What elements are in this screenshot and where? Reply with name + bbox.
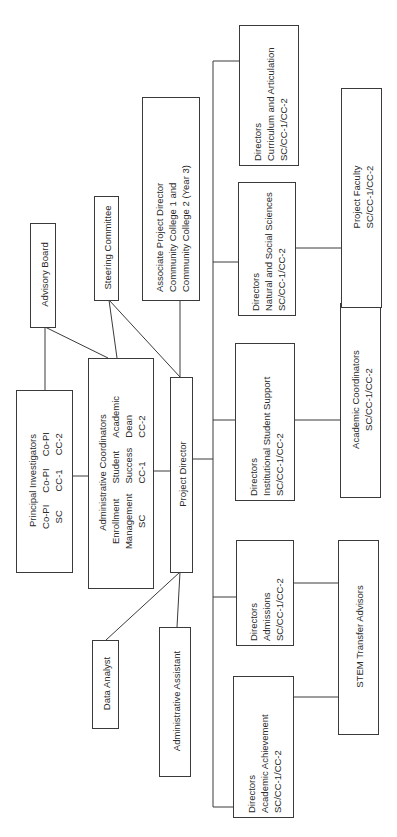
academic-coordinators-node: Academic Coordinators SC/CC-1/CC-2: [340, 303, 381, 498]
ac-cc2-line3: CC-2: [135, 416, 148, 438]
directors-natural-social-sciences-node: Directors Natural and Social Sciences SC…: [238, 182, 296, 316]
directors-admissions-node: Directors Admissions SC/CC-1/CC-2: [236, 540, 294, 646]
data-analyst-node: Data Analyst: [92, 640, 119, 729]
academic-coordinators-line-2: SC/CC-1/CC-2: [362, 368, 375, 431]
dir-nss-line-1: Directors: [249, 273, 262, 311]
associate-project-director-node: Associate Project Director Community Col…: [142, 97, 200, 301]
advisory-board-node: Advisory Board: [30, 223, 56, 328]
pi-cc1-org: CC-1: [52, 468, 65, 492]
ac-cc1-line1: Student: [109, 451, 122, 484]
steering-committee-label: Steering Committee: [101, 206, 114, 290]
steering-committee-node: Steering Committee: [94, 196, 119, 301]
ac-sc-line2: Management: [122, 494, 135, 549]
project-director-label: Project Director: [176, 441, 189, 506]
stem-transfer-advisors-node: STEM Transfer Advisors: [338, 540, 379, 735]
pi-cc1-role: Co-PI: [39, 468, 52, 492]
associate-pd-line-2: Community College 1 and: [166, 183, 179, 292]
project-faculty-line-2: SC/CC-1/CC-2: [363, 166, 376, 229]
advisory-board-label: Advisory Board: [38, 242, 51, 306]
project-faculty-node: Project Faculty SC/CC-1/CC-2: [341, 88, 382, 308]
dir-ca-line-1: Directors: [251, 123, 264, 161]
ac-cc2-line2: Dean: [122, 415, 135, 438]
associate-pd-line-1: Associate Project Director: [153, 183, 166, 292]
dir-iss-line-2: Institutional Student Support: [260, 377, 273, 496]
associate-pd-line-3: Community College 2 (Year 3): [179, 165, 192, 292]
pi-cc2-role: Co-PI: [39, 432, 52, 456]
data-analyst-label: Data Analyst: [100, 657, 113, 710]
directors-academic-achievement-node: Directors Academic Achievement SC/CC-1/C…: [233, 676, 294, 818]
academic-coordinators-line-1: Academic Coordinators: [349, 350, 362, 449]
principal-investigators-node: Principal Investigators Co-PISC Co-PICC-…: [16, 390, 73, 573]
administrative-assistant-label: Administrative Assistant: [170, 651, 183, 751]
dir-ca-line-3: SC/CC-1/CC-2: [277, 98, 290, 161]
pi-sc-org: SC: [52, 505, 65, 529]
dir-iss-line-3: SC/CC-1/CC-2: [273, 433, 286, 496]
pi-sc-role: Co-PI: [39, 505, 52, 529]
stem-transfer-advisors-label: STEM Transfer Advisors: [353, 585, 366, 687]
dir-aa-line-1: Directors: [245, 775, 258, 813]
admin-coordinators-title: Administrative Coordinators: [96, 414, 109, 531]
dir-adm-line-1: Directors: [247, 603, 260, 641]
directors-institutional-student-support-node: Directors Institutional Student Support …: [235, 343, 295, 501]
dir-ca-line-2: Curriculum and Articulation: [264, 47, 277, 161]
ac-cc1-line3: CC-1: [135, 461, 148, 483]
ac-cc2-line1: Academic: [109, 396, 122, 438]
dir-nss-line-2: Natural and Social Sciences: [262, 192, 275, 311]
administrative-coordinators-node: Administrative Coordinators EnrollmentMa…: [88, 358, 154, 589]
dir-aa-line-2: Academic Achievement: [258, 714, 271, 813]
dir-adm-line-3: SC/CC-1/CC-2: [273, 578, 286, 641]
dir-nss-line-3: SC/CC-1/CC-2: [275, 248, 288, 311]
project-faculty-line-1: Project Faculty: [350, 166, 363, 229]
dir-aa-line-3: SC/CC-1/CC-2: [271, 750, 284, 813]
project-director-node: Project Director: [170, 377, 193, 573]
dir-adm-line-2: Admissions: [260, 592, 273, 641]
pi-cc2-org: CC-2: [52, 432, 65, 456]
org-chart: Advisory Board Steering Committee Associ…: [0, 0, 397, 837]
ac-sc-line3: SC: [135, 515, 148, 528]
directors-curriculum-articulation-node: Directors Curriculum and Articulation SC…: [239, 25, 299, 166]
ac-sc-line1: Enrollment: [109, 499, 122, 544]
pi-title: Principal Investigators: [26, 434, 39, 527]
administrative-assistant-node: Administrative Assistant: [159, 627, 191, 777]
ac-cc1-line2: Success: [122, 448, 135, 484]
dir-iss-line-1: Directors: [247, 458, 260, 496]
